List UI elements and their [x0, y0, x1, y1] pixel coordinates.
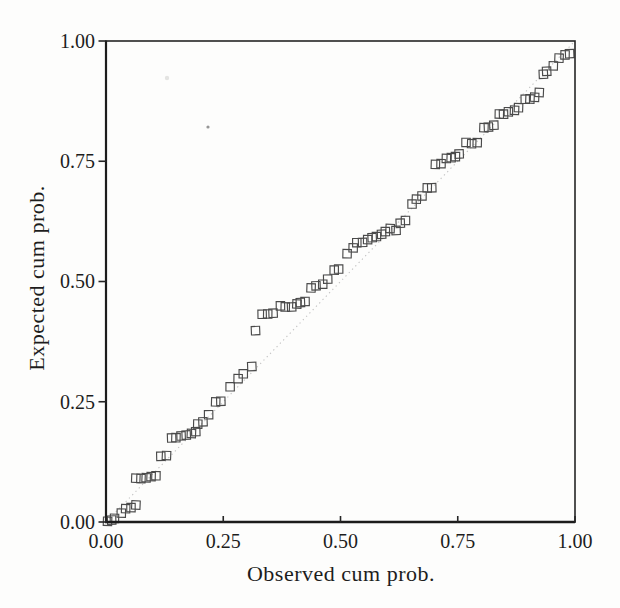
y-tick-label: 0.25 [60, 391, 95, 413]
data-point-marker [542, 67, 551, 76]
scan-artifact-layer [165, 76, 210, 129]
y-axis-title: Expected cum prob. [24, 185, 49, 371]
data-point-marker [490, 121, 499, 130]
data-point-marker [418, 192, 426, 200]
data-point-marker [307, 284, 316, 293]
x-axis-title: Observed cum prob. [247, 561, 435, 586]
pp-scatter-chart: 0.000.000.250.250.500.500.750.751.001.00… [0, 0, 620, 608]
data-point-marker [386, 224, 395, 233]
y-tick-label: 1.00 [60, 30, 95, 52]
pp-plot-figure: 0.000.000.250.250.500.500.750.751.001.00… [0, 0, 620, 608]
x-tick-label: 0.75 [440, 530, 475, 552]
data-point-marker [251, 326, 260, 335]
data-point-marker [211, 398, 220, 407]
x-tick-label: 0.50 [323, 530, 358, 552]
data-point-marker [239, 370, 247, 378]
y-tick-label: 0.50 [60, 270, 95, 292]
scan-speck [206, 125, 209, 128]
data-point-marker [343, 249, 352, 258]
y-tick-label: 0.75 [60, 150, 95, 172]
x-tick-label: 0.25 [206, 530, 241, 552]
data-point-marker [401, 216, 409, 224]
data-point-marker [234, 374, 242, 382]
data-point-marker [287, 303, 296, 312]
data-point-marker [226, 383, 234, 391]
x-tick-label: 0.00 [89, 530, 124, 552]
data-point-marker [258, 310, 267, 319]
data-point-marker [353, 238, 361, 246]
data-point-marker [323, 275, 332, 284]
data-point-marker [358, 238, 367, 247]
y-tick-label: 0.00 [60, 511, 95, 533]
scan-speck [165, 76, 169, 80]
x-tick-label: 1.00 [558, 530, 593, 552]
data-point-layer [103, 49, 574, 525]
data-point-marker [131, 474, 140, 483]
data-point-marker [247, 362, 256, 371]
data-point-marker [132, 501, 141, 510]
